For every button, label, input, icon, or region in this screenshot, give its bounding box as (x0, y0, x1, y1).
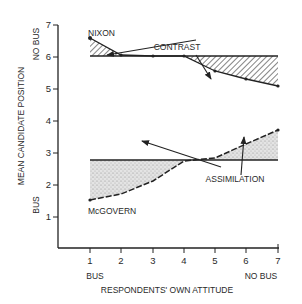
y-tick-label: 3 (46, 147, 51, 158)
y-tick-label: 4 (46, 115, 51, 126)
assimilation-label: ASSIMILATION (206, 174, 265, 184)
y-axis-title: MEAN CANDIDATE POSITION (16, 67, 26, 185)
x-tick-label: 6 (243, 255, 248, 266)
y-bottom-label: BUS (31, 196, 41, 214)
x-tick-label: 1 (87, 255, 92, 266)
y-tick-label: 5 (46, 83, 51, 94)
x-tick-label: 7 (275, 255, 280, 266)
x-axis-title: RESPONDENTS' OWN ATTITUDE (101, 285, 234, 295)
y-tick-label: 6 (46, 51, 51, 62)
x-right-label: NO BUS (245, 271, 278, 281)
x-left-label: BUS (86, 271, 104, 281)
nixon-label: NIXON (88, 28, 115, 38)
x-tick-label: 5 (212, 255, 217, 266)
y-tick-label: 2 (46, 179, 51, 190)
y-ticks (53, 25, 58, 217)
y-tick-label: 7 (46, 19, 51, 30)
mcgovern-assimilation-area (90, 130, 278, 200)
y-top-label: NO BUS (31, 27, 41, 60)
mcgovern-label: McGOVERN (88, 206, 136, 216)
x-tick-label: 4 (181, 255, 186, 266)
y-tick-label: 1 (46, 211, 51, 222)
chart: 7 6 5 4 3 2 1 1 2 3 4 5 6 7 BUS NO BUS R… (0, 0, 302, 304)
x-tick-label: 2 (118, 255, 123, 266)
x-tick-label: 3 (150, 255, 155, 266)
